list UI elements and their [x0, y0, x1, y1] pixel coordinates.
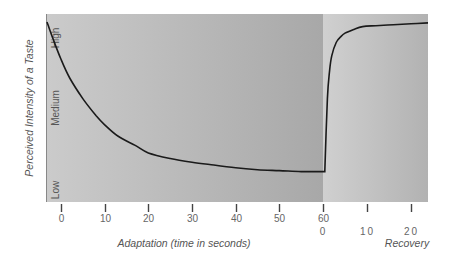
- recovery-panel: [323, 14, 428, 202]
- adaptation-tick-label: 50: [274, 213, 286, 224]
- adaptation-tick-label: 40: [231, 213, 243, 224]
- adaptation-tick-label: 20: [143, 213, 155, 224]
- recovery-tick-label: 10: [360, 226, 375, 237]
- recovery-tick-label: 20: [404, 226, 419, 237]
- adaptation-tick-label: 30: [187, 213, 199, 224]
- x-axis-title-recovery: Recovery: [385, 237, 430, 249]
- y-axis-title: Perceived Intensity of a Taste: [23, 39, 35, 177]
- level-label-low: Low: [50, 180, 61, 199]
- adaptation-tick-label: 60: [318, 213, 330, 224]
- recovery-ticks: 01020: [320, 204, 419, 237]
- adaptation-panel: [46, 14, 323, 202]
- adaptation-tick-label: 10: [100, 213, 112, 224]
- adaptation-ticks: 0102030405060: [59, 204, 330, 224]
- recovery-tick-label: 0: [320, 226, 328, 237]
- taste-adaptation-chart: High Medium Low Perceived Intensity of a…: [0, 0, 451, 267]
- x-axis-title-adaptation: Adaptation (time in seconds): [116, 237, 250, 249]
- adaptation-tick-label: 0: [59, 213, 65, 224]
- level-label-medium: Medium: [50, 90, 61, 126]
